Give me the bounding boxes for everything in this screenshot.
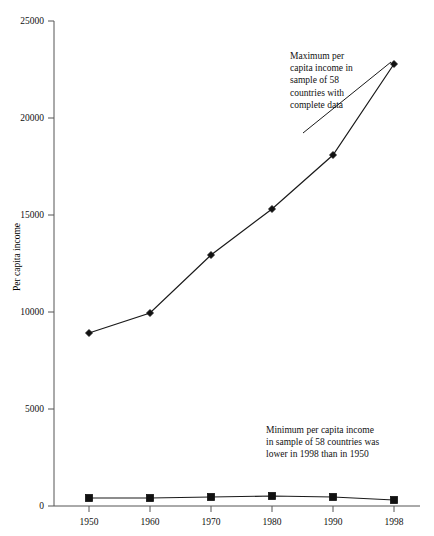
- maximum-annotation-line-1: Maximum per: [290, 50, 410, 62]
- minimum-annotation-line-3: lower in 1998 than in 1950: [266, 448, 434, 460]
- y-tick-marks: [48, 21, 54, 506]
- minimum-annotation: Minimum per capita income in sample of 5…: [266, 424, 434, 461]
- series-minimum-line: [89, 496, 394, 500]
- minimum-annotation-line-1: Minimum per capita income: [266, 424, 434, 436]
- x-tick-label-1960: 1960: [125, 517, 175, 527]
- maximum-annotation: Maximum per capita income in sample of 5…: [290, 50, 410, 111]
- maximum-annotation-line-2: capita income in: [290, 62, 410, 74]
- y-tick-label-15000: 15000: [0, 210, 44, 220]
- minimum-annotation-line-2: in sample of 58 countries was: [266, 436, 434, 448]
- x-tick-marks: [89, 506, 394, 512]
- y-tick-label-10000: 10000: [0, 307, 44, 317]
- maximum-annotation-line-4: countries with: [290, 87, 410, 99]
- x-tick-label-1970: 1970: [186, 517, 236, 527]
- y-tick-label-25000: 25000: [0, 16, 44, 26]
- maximum-annotation-line-3: sample of 58: [290, 74, 410, 86]
- y-tick-label-20000: 20000: [0, 113, 44, 123]
- maximum-annotation-line-5: complete data: [290, 99, 410, 111]
- x-tick-label-1950: 1950: [64, 517, 114, 527]
- x-tick-label-1980: 1980: [247, 517, 297, 527]
- x-tick-label-1998: 1998: [369, 517, 419, 527]
- y-tick-label-5000: 5000: [0, 404, 44, 414]
- line-chart: Per capita income 25000 20000 15000 1000…: [0, 0, 434, 536]
- x-tick-label-1990: 1990: [308, 517, 358, 527]
- y-tick-label-0: 0: [0, 501, 44, 511]
